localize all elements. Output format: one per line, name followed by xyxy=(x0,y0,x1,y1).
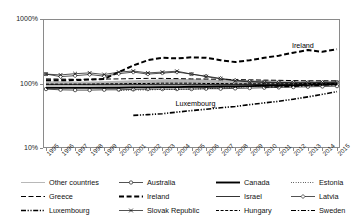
legend-swatch xyxy=(20,192,46,201)
legend-item-israel[interactable]: Israel xyxy=(215,190,262,203)
legend-row: Other countriesAustraliaCanadaEstonia xyxy=(0,176,352,189)
legend-swatch xyxy=(290,192,316,201)
chart-plot-region: 1000%100%10% 199519961997199819992000200… xyxy=(0,0,352,160)
series-marker xyxy=(301,195,305,199)
legend-label: Latvia xyxy=(319,192,338,201)
legend-label: Ireland xyxy=(147,192,169,201)
legend-row: LuxembourgSlovak RepublicHungarySweden xyxy=(0,204,352,217)
y-tick-mark xyxy=(40,148,43,149)
legend-swatch xyxy=(20,178,46,187)
legend-item-other-countries[interactable]: Other countries xyxy=(20,176,99,189)
legend-label: Sweden xyxy=(319,206,345,215)
legend-item-ireland[interactable]: Ireland xyxy=(118,190,169,203)
legend-swatch xyxy=(215,206,241,215)
legend-item-canada[interactable]: Canada xyxy=(215,176,270,189)
series-marker xyxy=(88,88,91,91)
legend-label: Other countries xyxy=(49,178,99,187)
legend-swatch xyxy=(215,178,241,187)
legend-label: Canada xyxy=(244,178,270,187)
legend-swatch xyxy=(290,206,316,215)
chart-screenshot: 1000%100%10% 199519961997199819992000200… xyxy=(0,0,352,224)
legend-row: GreeceIrelandIsraelLatvia xyxy=(0,190,352,203)
legend-item-latvia[interactable]: Latvia xyxy=(290,190,338,203)
legend-label: Luxembourg xyxy=(49,206,90,215)
series-luxembourg xyxy=(133,92,337,116)
legend-swatch xyxy=(290,178,316,187)
legend-label: Greece xyxy=(49,192,73,201)
annotation-ireland: Ireland xyxy=(292,41,314,50)
chart-series-canvas xyxy=(43,19,340,148)
series-marker xyxy=(73,88,76,91)
legend-label: Estonia xyxy=(319,178,343,187)
series-marker xyxy=(73,74,77,78)
legend-item-greece[interactable]: Greece xyxy=(20,190,73,203)
legend-swatch xyxy=(118,206,144,215)
legend-item-luxembourg[interactable]: Luxembourg xyxy=(20,204,90,217)
chart-legend: Other countriesAustraliaCanadaEstoniaGre… xyxy=(0,176,352,220)
legend-item-hungary[interactable]: Hungary xyxy=(215,204,272,217)
legend-swatch xyxy=(118,192,144,201)
series-marker xyxy=(129,181,132,184)
series-marker xyxy=(219,87,222,90)
y-tick-label: 1000% xyxy=(2,15,38,23)
legend-swatch xyxy=(118,178,144,187)
legend-item-slovak-republic[interactable]: Slovak Republic xyxy=(118,204,199,217)
legend-label: Slovak Republic xyxy=(147,206,199,215)
annotation-luxembourg: Luxembourg xyxy=(176,99,216,108)
y-tick-label: 100% xyxy=(2,80,38,88)
legend-swatch xyxy=(215,192,241,201)
series-line xyxy=(133,92,337,116)
legend-label: Australia xyxy=(147,178,175,187)
y-tick-label: 10% xyxy=(2,144,38,152)
legend-swatch xyxy=(20,206,46,215)
series-marker xyxy=(190,87,193,90)
legend-label: Israel xyxy=(244,192,262,201)
legend-item-australia[interactable]: Australia xyxy=(118,176,175,189)
legend-item-sweden[interactable]: Sweden xyxy=(290,204,345,217)
legend-label: Hungary xyxy=(244,206,272,215)
legend-item-estonia[interactable]: Estonia xyxy=(290,176,343,189)
